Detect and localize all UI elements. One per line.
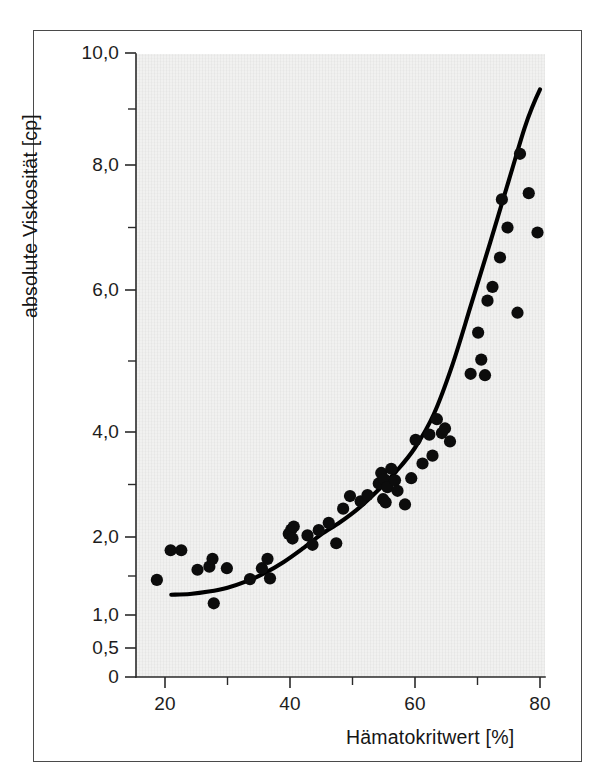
x-tick-label: 20 bbox=[154, 693, 175, 715]
data-point bbox=[514, 148, 526, 160]
data-point bbox=[244, 573, 256, 585]
x-axis-title: Hämatokritwert [%] bbox=[346, 726, 514, 749]
y-axis-title-text: absolute Viskosität [cp] bbox=[19, 114, 42, 318]
data-point bbox=[191, 564, 203, 576]
data-point bbox=[208, 597, 220, 609]
data-point bbox=[494, 251, 506, 263]
figure-root: 10,08,06,04,02,01,00,50 20406080 absolut… bbox=[0, 0, 607, 783]
data-point bbox=[486, 281, 498, 293]
data-point bbox=[479, 369, 491, 381]
data-point bbox=[389, 474, 401, 486]
data-point bbox=[306, 539, 318, 551]
data-point bbox=[472, 327, 484, 339]
data-point bbox=[261, 553, 273, 565]
data-point bbox=[323, 517, 335, 529]
y-tick-label: 1,0 bbox=[60, 604, 119, 626]
data-point bbox=[431, 413, 443, 425]
y-tick-label: 0 bbox=[60, 666, 119, 688]
data-point bbox=[206, 553, 218, 565]
data-point bbox=[410, 434, 422, 446]
data-point bbox=[380, 496, 392, 508]
data-point bbox=[475, 353, 487, 365]
y-tick-label: 0,5 bbox=[60, 637, 119, 659]
data-point bbox=[286, 532, 298, 544]
data-point bbox=[337, 503, 349, 515]
y-axis-title: absolute Viskosität [cp] bbox=[42, 58, 68, 318]
data-point bbox=[439, 422, 451, 434]
data-point bbox=[165, 544, 177, 556]
data-point bbox=[399, 498, 411, 510]
y-tick-label: 10,0 bbox=[60, 42, 119, 64]
data-point bbox=[391, 485, 403, 497]
data-point bbox=[444, 435, 456, 447]
data-point bbox=[426, 450, 438, 462]
fit-curve bbox=[171, 89, 540, 594]
data-point bbox=[481, 295, 493, 307]
data-point bbox=[288, 520, 300, 532]
data-point bbox=[423, 429, 435, 441]
data-point bbox=[405, 472, 417, 484]
data-point bbox=[416, 457, 428, 469]
data-point bbox=[531, 226, 543, 238]
y-tick-label: 2,0 bbox=[60, 526, 119, 548]
data-point bbox=[151, 574, 163, 586]
data-point bbox=[221, 562, 233, 574]
data-point bbox=[465, 368, 477, 380]
data-point bbox=[496, 193, 508, 205]
data-point bbox=[330, 537, 342, 549]
data-point bbox=[501, 221, 513, 233]
x-tick-label: 80 bbox=[529, 693, 550, 715]
x-tick-label: 40 bbox=[279, 693, 300, 715]
data-point bbox=[511, 307, 523, 319]
x-tick-label: 60 bbox=[404, 693, 425, 715]
data-point bbox=[175, 544, 187, 556]
data-points bbox=[151, 148, 544, 610]
fit-curve-path bbox=[171, 89, 540, 594]
data-point bbox=[361, 489, 373, 501]
data-point bbox=[523, 187, 535, 199]
y-tick-label: 8,0 bbox=[60, 154, 119, 176]
data-point bbox=[313, 524, 325, 536]
axis-lines bbox=[136, 54, 545, 677]
data-point bbox=[264, 572, 276, 584]
y-tick-label: 6,0 bbox=[60, 279, 119, 301]
y-tick-label: 4,0 bbox=[60, 421, 119, 443]
data-point bbox=[385, 463, 397, 475]
data-point bbox=[344, 490, 356, 502]
